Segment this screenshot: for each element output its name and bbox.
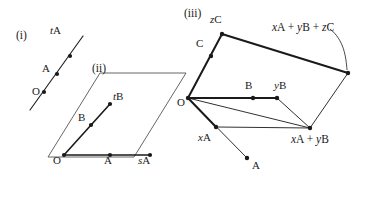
point-xA-plus-yB bbox=[308, 126, 312, 130]
edge-O-to-sum-xy bbox=[188, 98, 310, 128]
point-origin bbox=[186, 96, 190, 100]
label-iii-A: A bbox=[252, 160, 260, 171]
leader-arc-leader-to-sum-xyz bbox=[330, 29, 347, 70]
point-B bbox=[251, 96, 255, 100]
label-i-tA: tA bbox=[50, 25, 61, 36]
label-iii-zC: zC bbox=[210, 14, 222, 25]
edge-sum-xy-to-sum-xyz bbox=[310, 73, 348, 128]
label-ii-A: A bbox=[104, 155, 112, 166]
vector-O-to-tB bbox=[64, 104, 110, 155]
plane-parallelogram-outline bbox=[48, 73, 186, 157]
point-zC bbox=[220, 32, 224, 36]
edge-xA-to-sum-xy bbox=[216, 127, 310, 128]
label-iii-xA-plus-yB: xA + yB bbox=[291, 134, 329, 146]
vector-diagram-figure: (i)(ii)(iii)OAtAOAsABtBOCzCByBxAAxA + yB… bbox=[0, 0, 365, 199]
point-tA bbox=[68, 54, 72, 58]
point-C bbox=[209, 54, 213, 58]
panel-i-geometry bbox=[30, 36, 83, 110]
label-ii-tB-vector: B bbox=[116, 90, 123, 102]
point-tB bbox=[108, 102, 112, 106]
label-i-O: O bbox=[32, 86, 40, 97]
panel-tag-iii: (iii) bbox=[184, 8, 201, 20]
label-iii-xA: xA bbox=[198, 132, 211, 143]
panel-tag-i: (i) bbox=[16, 30, 27, 42]
label-ii-sA-vector: A bbox=[142, 154, 150, 166]
point-xA bbox=[214, 125, 218, 129]
point-O bbox=[42, 90, 46, 94]
label-iii-xA-plus-yB-plus-zC: xA + yB + zC bbox=[272, 22, 334, 34]
label-ii-O: O bbox=[53, 155, 61, 166]
label-iii-O: O bbox=[177, 97, 185, 108]
point-O bbox=[62, 153, 66, 157]
label-ii-tB: tB bbox=[113, 91, 123, 102]
edge-zC-to-sum-xyz bbox=[222, 34, 348, 73]
edge-O-to-zC bbox=[188, 34, 222, 98]
point-A bbox=[55, 72, 59, 76]
label-i-A: A bbox=[42, 63, 50, 74]
point-yB bbox=[275, 96, 279, 100]
label-i-tA-vector: A bbox=[53, 24, 61, 36]
point-B bbox=[89, 123, 93, 127]
label-iii-C: C bbox=[196, 38, 203, 49]
label-iii-yB: yB bbox=[274, 80, 286, 91]
label-iii-xA-vector: A bbox=[203, 131, 211, 143]
point-xA-plus-yB-plus-zC bbox=[346, 71, 350, 75]
label-iii-B: B bbox=[245, 80, 252, 91]
label-iii-yB-vector: B bbox=[279, 79, 286, 91]
label-ii-B: B bbox=[78, 112, 85, 123]
point-A bbox=[245, 156, 249, 160]
panel-ii-geometry bbox=[48, 73, 186, 157]
panel-tag-ii: (ii) bbox=[92, 63, 106, 75]
label-iii-zC-vector: C bbox=[214, 13, 221, 25]
label-ii-sA: sA bbox=[138, 155, 150, 166]
